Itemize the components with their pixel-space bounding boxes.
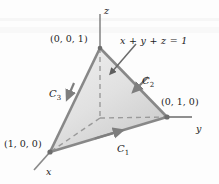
- curve-label-c2: C2: [142, 76, 154, 89]
- curve-label-c3-base: C: [49, 88, 57, 99]
- vertex-label-x-intercept: (1, 0, 0): [4, 139, 42, 149]
- vertex-label-z-intercept: (0, 0, 1): [50, 34, 88, 44]
- curve-c3-arrow: [68, 83, 74, 97]
- curve-label-c1-subscript: 1: [125, 149, 129, 157]
- curve-label-c3-subscript: 3: [57, 94, 61, 102]
- axis-label-x: x: [46, 167, 51, 177]
- vertex-dot-y: [164, 114, 169, 119]
- plane-equation-leader: [111, 44, 136, 73]
- plane-equation-label: x + y + z = 1: [120, 36, 188, 46]
- vertex-dot-x: [47, 149, 52, 154]
- curve-label-c3: C3: [49, 89, 61, 102]
- axis-label-z: z: [104, 6, 109, 16]
- axis-label-y: y: [196, 124, 201, 134]
- curve-label-c2-subscript: 2: [150, 81, 154, 89]
- vertex-label-y-intercept: (0, 1, 0): [161, 97, 199, 107]
- plane-triangle-diagram: [0, 0, 219, 184]
- curve-label-c2-base: C: [142, 75, 150, 86]
- curve-label-c1-base: C: [117, 143, 125, 154]
- curve-label-c1: C1: [117, 144, 129, 157]
- vertex-dot-z: [98, 46, 103, 51]
